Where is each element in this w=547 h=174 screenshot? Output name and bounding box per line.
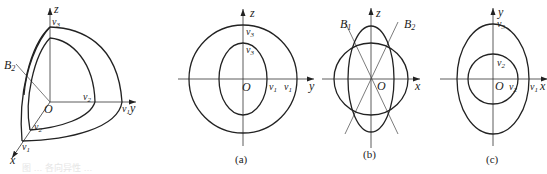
b2-label-b: B2 <box>404 17 415 32</box>
figure-caption: 图 … 各向异性 … <box>22 162 93 173</box>
c-x-label: x <box>539 79 546 93</box>
c-inner-v2-x: v2 <box>509 81 517 94</box>
panel-c: y x O v3 v2 v2 v1 (c) <box>440 5 547 166</box>
y-axis-label: y <box>129 101 136 115</box>
x-axis-label: x <box>9 153 16 167</box>
v2-x-label: v2 <box>34 121 42 134</box>
c-y-label: y <box>497 5 504 19</box>
a-outer-v1: v1 <box>284 81 292 94</box>
b2-label: B2 <box>4 58 15 73</box>
origin-label: O <box>44 102 53 116</box>
panel-3d: z y x O v3 v2 v1 v2 v1 B2 <box>4 2 136 167</box>
inner-curve-zy <box>50 38 95 102</box>
b-z-label: z <box>375 6 381 20</box>
a-outer-v3: v3 <box>246 26 254 39</box>
a-caption: (a) <box>235 153 248 166</box>
velocity-surface-diagram: z y x O v3 v2 v1 v2 v1 B2 图 … 各向异性 … z y… <box>0 0 547 174</box>
c-caption: (c) <box>486 153 499 166</box>
b2-line <box>16 64 50 102</box>
inner-curve-zx <box>28 38 50 130</box>
c-origin-label: O <box>495 79 504 93</box>
panel-a: z y O v3 v3 v1 v1 (a) <box>178 6 315 166</box>
c-inner-v2: v2 <box>497 57 505 70</box>
b-x-label: x <box>414 79 421 93</box>
a-inner-v1: v1 <box>269 81 277 94</box>
a-y-label: y <box>308 79 315 93</box>
b-caption: (b) <box>363 148 376 161</box>
b1-label: B1 <box>340 17 351 32</box>
v1-y-label: v1 <box>122 103 130 116</box>
b-origin-label: O <box>377 79 386 93</box>
a-z-label: z <box>249 6 255 20</box>
a-origin-label: O <box>242 80 251 94</box>
c-outer-v1-x: v1 <box>530 81 538 94</box>
panel-b: z x O B1 B2 (b) <box>322 6 421 161</box>
c-outer-v3: v3 <box>497 18 505 31</box>
z-axis-label: z <box>53 2 59 16</box>
v1-x-label: v1 <box>22 141 30 154</box>
